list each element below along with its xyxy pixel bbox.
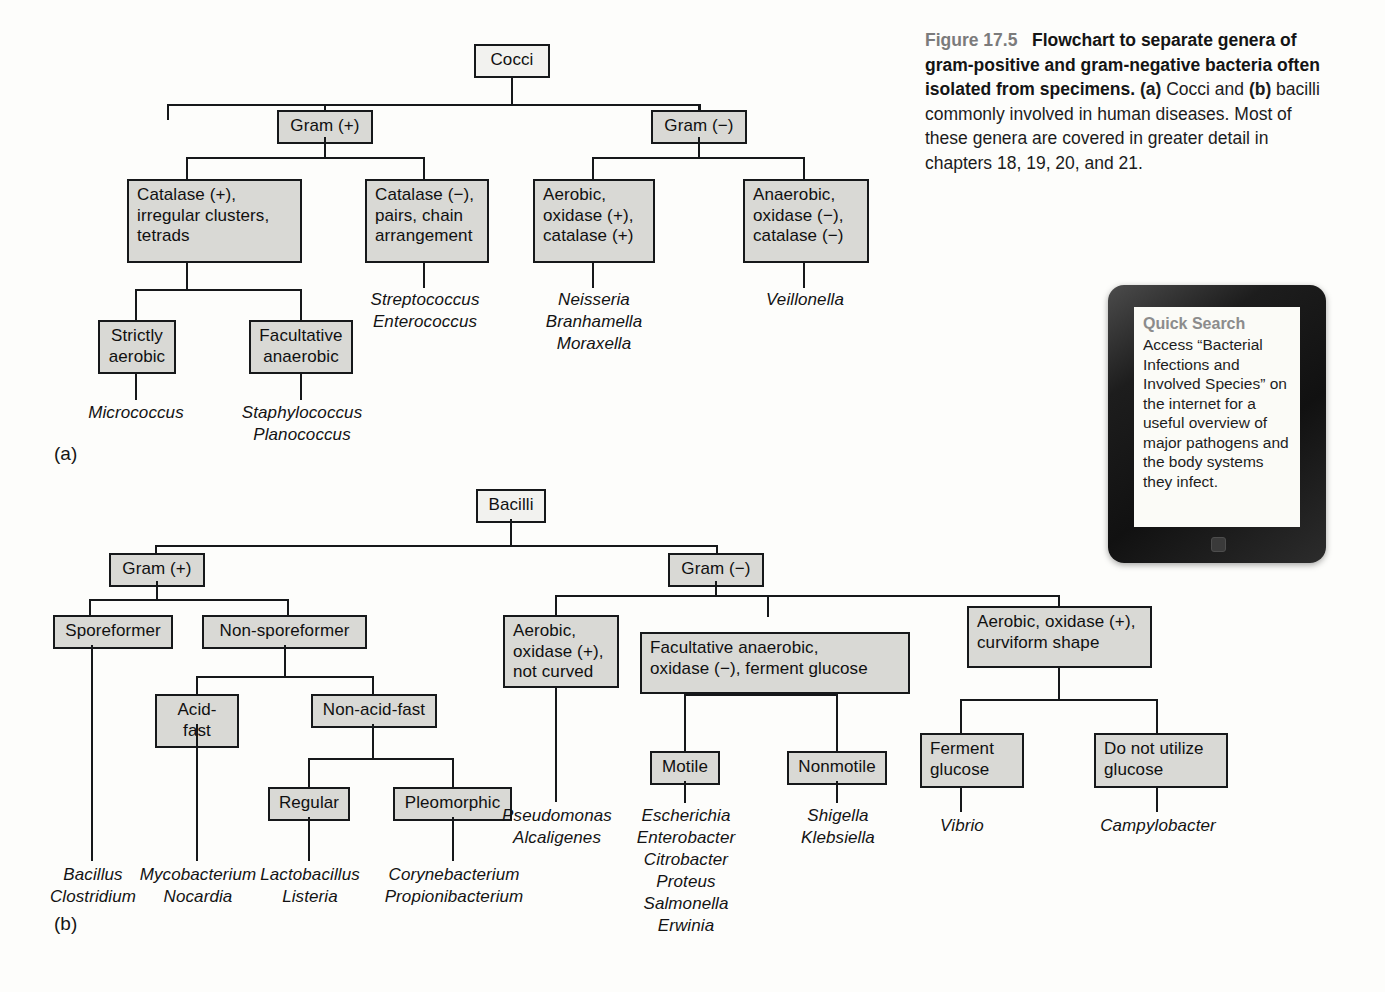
node-cocci-aerobic-oxidase-catalase: Aerobic, oxidase (+), catalase (+) <box>533 179 655 263</box>
figure-number: Figure 17.5 <box>925 30 1017 50</box>
connector <box>308 758 454 760</box>
node-cocci-catalase-negative: Catalase (−), pairs, chain arrangement <box>365 179 489 263</box>
connector <box>1156 788 1158 812</box>
genus-micrococcus: Micrococcus <box>88 402 184 424</box>
node-cocci-catalase-positive: Catalase (+), irregular clusters, tetrad… <box>127 179 302 263</box>
connector <box>300 289 302 322</box>
connector <box>592 157 805 159</box>
connector <box>836 781 838 803</box>
caption-ref-a: (a) <box>1140 79 1161 99</box>
tablet-screen: Quick Search Access “Bacterial Infection… <box>1134 307 1300 527</box>
connector <box>452 758 454 789</box>
node-bacilli-do-not-utilize-glucose: Do not utilize glucose <box>1094 733 1228 788</box>
connector <box>89 599 289 601</box>
connector <box>592 157 594 181</box>
connector <box>423 157 425 181</box>
connector <box>300 374 302 400</box>
connector <box>186 263 188 290</box>
connector <box>555 688 557 802</box>
connector <box>196 724 198 861</box>
node-bacilli-pleomorphic: Pleomorphic <box>393 787 512 821</box>
node-bacilli-non-sporeformer: Non-sporeformer <box>202 615 367 649</box>
node-bacilli-sporeformer: Sporeformer <box>53 615 173 649</box>
node-cocci-strictly-aerobic: Strictly aerobic <box>98 320 176 374</box>
connector <box>684 726 686 752</box>
node-bacilli-non-acid-fast: Non-acid-fast <box>311 694 437 728</box>
node-bacilli-aerobic-curviform: Aerobic, oxidase (+), curviform shape <box>967 606 1152 668</box>
connector <box>555 595 1060 597</box>
panel-label-b: (b) <box>54 913 77 935</box>
node-cocci-anaerobic-oxidase-catalase: Anaerobic, oxidase (−), catalase (−) <box>743 179 869 263</box>
connector <box>135 289 302 291</box>
connector <box>196 676 198 696</box>
genus-enterics: Escherichia Enterobacter Citrobacter Pro… <box>637 805 736 938</box>
connector <box>135 374 137 400</box>
connector <box>960 699 962 735</box>
caption-text-1: Cocci and <box>1161 79 1249 99</box>
connector <box>836 726 838 752</box>
connector <box>592 263 594 288</box>
connector <box>372 724 374 760</box>
connector <box>196 676 374 678</box>
node-bacilli-regular: Regular <box>268 787 350 821</box>
node-bacilli-facultative-ferment-glucose: Facultative anaerobic, oxidase (−), ferm… <box>640 632 910 694</box>
genus-veillonella: Veillonella <box>766 289 844 311</box>
connector <box>452 817 454 861</box>
connector <box>555 595 557 617</box>
connector <box>803 263 805 288</box>
node-bacilli-nonmotile: Nonmotile <box>787 751 887 785</box>
genus-lactobacillus-listeria: Lactobacillus Listeria <box>260 864 360 908</box>
node-cocci-facultative-anaerobic: Facultative anaerobic <box>249 320 353 374</box>
node-bacilli-aerobic-not-curved: Aerobic, oxidase (+), not curved <box>503 615 619 688</box>
tablet-device-illustration: Quick Search Access “Bacterial Infection… <box>1108 285 1326 563</box>
connector <box>324 137 326 158</box>
connector <box>186 157 188 181</box>
connector <box>167 104 169 120</box>
genus-bacillus-clostridium: Bacillus Clostridium <box>50 864 136 908</box>
genus-neisseria-branhamella-moraxella: Neisseria Branhamella Moraxella <box>546 289 643 355</box>
genus-staphylococcus-planococcus: Staphylococcus Planococcus <box>242 402 362 446</box>
genus-pseudomonas-alcaligenes: Pseudomonas Alcaligenes <box>502 805 612 849</box>
quick-search-title: Quick Search <box>1143 315 1291 333</box>
connector <box>767 595 769 617</box>
caption-ref-b: (b) <box>1249 79 1271 99</box>
genus-shigella-klebsiella: Shigella Klebsiella <box>801 805 875 849</box>
figure-caption: Figure 17.5 Flowchart to separate genera… <box>925 28 1325 175</box>
connector <box>156 581 158 600</box>
node-cocci-root: Cocci <box>474 44 550 78</box>
connector <box>186 157 424 159</box>
connector <box>684 694 838 696</box>
home-button-icon <box>1211 537 1226 552</box>
connector <box>308 758 310 789</box>
connector <box>684 781 686 803</box>
connector <box>372 676 374 696</box>
connector <box>167 104 701 106</box>
node-bacilli-ferment-glucose: Ferment glucose <box>920 733 1024 788</box>
connector <box>284 645 286 678</box>
node-bacilli-motile: Motile <box>650 751 720 785</box>
genus-corynebacterium-propionibacterium: Corynebacterium Propionibacterium <box>385 864 524 908</box>
genus-mycobacterium-nocardia: Mycobacterium Nocardia <box>140 864 257 908</box>
connector <box>155 545 718 547</box>
connector <box>960 699 1158 701</box>
panel-label-a: (a) <box>54 443 77 465</box>
connector <box>511 76 513 104</box>
connector <box>308 817 310 861</box>
connector <box>423 263 425 288</box>
figure-page: Figure 17.5 Flowchart to separate genera… <box>0 0 1385 992</box>
connector <box>135 289 137 322</box>
connector <box>836 694 838 726</box>
connector <box>1156 699 1158 735</box>
quick-search-body: Access “Bacterial Infections and Involve… <box>1143 335 1291 491</box>
connector <box>698 104 700 112</box>
node-bacilli-root: Bacilli <box>476 489 546 523</box>
connector <box>803 157 805 181</box>
connector <box>684 694 686 726</box>
connector <box>510 519 512 547</box>
genus-campylobacter: Campylobacter <box>1100 815 1216 837</box>
connector <box>91 645 93 861</box>
connector <box>698 137 700 158</box>
connector <box>1058 668 1060 701</box>
genus-streptococcus-enterococcus: Streptococcus Enterococcus <box>370 289 479 333</box>
genus-vibrio: Vibrio <box>940 815 984 837</box>
